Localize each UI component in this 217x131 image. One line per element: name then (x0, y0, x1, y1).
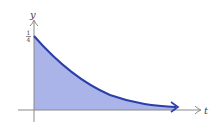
shaded-area (34, 36, 176, 110)
y-tick-numerator: 1 (27, 29, 31, 36)
x-axis-label: t (204, 105, 209, 116)
y-tick-label: 1 4 (26, 29, 31, 43)
y-tick-denominator: 4 (27, 36, 31, 43)
y-axis-label: y (29, 9, 36, 20)
decay-graph: y t 1 4 (0, 0, 217, 131)
